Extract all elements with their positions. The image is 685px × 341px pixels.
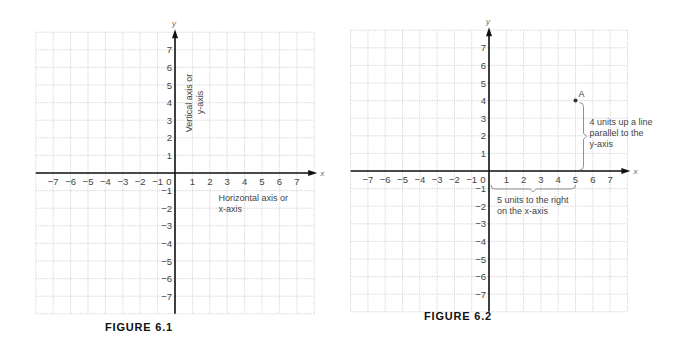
- x-tick-label: 5: [573, 174, 578, 185]
- figure-caption: FIGURE 6.2: [424, 310, 492, 322]
- x-tick-label: 7: [294, 176, 299, 187]
- y-tick-label: 3: [167, 115, 172, 126]
- x-tick-label: 2: [521, 174, 526, 185]
- horizontal-axis-annotation: Horizontal axis or: [219, 193, 289, 203]
- x-axis-arrow-icon: [308, 170, 317, 176]
- y-tick-label: −3: [161, 220, 172, 231]
- x-tick-label: −7: [48, 176, 59, 187]
- y-tick-label: 1: [167, 150, 172, 161]
- y-tick-label: 1: [481, 148, 486, 159]
- x-tick-label: −6: [65, 176, 76, 187]
- x-axis-name: x: [319, 169, 325, 178]
- x-tick-label: 1: [504, 174, 509, 185]
- x-tick-label: 6: [590, 174, 595, 185]
- right-annotation: 5 units to the right: [497, 195, 569, 205]
- y-tick-label: 6: [167, 62, 172, 73]
- x-tick-label: −6: [380, 174, 391, 185]
- y-tick-label: −4: [475, 236, 486, 247]
- up-annotation: 4 units up a line: [590, 117, 653, 127]
- figure-2: xy−7−6−5−4−3−2−1012345677654321−1−2−3−4−…: [351, 17, 653, 322]
- up-annotation: parallel to the: [590, 128, 644, 138]
- x-tick-label: 1: [190, 176, 195, 187]
- x-tick-label: −4: [414, 174, 425, 185]
- y-tick-label: −1: [161, 185, 172, 196]
- figure-caption: FIGURE 6.1: [105, 321, 173, 333]
- y-tick-label: 4: [481, 95, 486, 106]
- x-tick-label: 7: [607, 174, 612, 185]
- y-tick-label: −4: [161, 238, 172, 249]
- x-tick-label: 3: [225, 176, 230, 187]
- x-tick-label: 4: [556, 174, 561, 185]
- point-label: A: [579, 89, 585, 99]
- x-tick-label: −5: [397, 174, 408, 185]
- x-tick-label: −2: [135, 176, 146, 187]
- x-tick-label: −3: [432, 174, 443, 185]
- x-tick-label: −2: [449, 174, 460, 185]
- y-tick-label: −7: [161, 291, 172, 302]
- x-tick-label: 3: [538, 174, 543, 185]
- figures-canvas: xy−7−6−5−4−3−2−1012345677654321−1−2−3−4−…: [0, 0, 685, 341]
- y-axis-name: y: [485, 17, 491, 26]
- point-a: [574, 99, 578, 103]
- y-axis-name: y: [171, 19, 177, 28]
- x-axis-name: x: [632, 167, 638, 176]
- x-tick-label: 2: [207, 176, 212, 187]
- y-tick-label: 2: [167, 132, 172, 143]
- y-tick-label: −5: [161, 256, 172, 267]
- y-tick-label: 6: [481, 60, 486, 71]
- y-tick-label: 5: [167, 80, 172, 91]
- y-axis-arrow-icon: [486, 27, 492, 36]
- y-axis-arrow-icon: [172, 29, 178, 38]
- y-tick-label: −6: [161, 273, 172, 284]
- x-tick-label: 4: [242, 176, 247, 187]
- y-tick-label: −3: [475, 218, 486, 229]
- y-tick-label: −6: [475, 271, 486, 282]
- x-tick-label: 5: [259, 176, 264, 187]
- x-axis-arrow-icon: [621, 168, 630, 174]
- y-tick-label: 2: [481, 130, 486, 141]
- y-tick-label: −1: [475, 183, 486, 194]
- y-tick-label: 3: [481, 113, 486, 124]
- x-tick-label: 6: [277, 176, 282, 187]
- y-tick-label: −7: [475, 289, 486, 300]
- y-tick-label: 4: [167, 97, 172, 108]
- y-tick-label: −2: [475, 201, 486, 212]
- x-tick-label: −3: [117, 176, 128, 187]
- x-tick-label: −4: [100, 176, 111, 187]
- x-tick-label: −5: [83, 176, 94, 187]
- y-tick-label: 7: [481, 42, 486, 53]
- y-tick-label: −2: [161, 203, 172, 214]
- horizontal-axis-annotation: x-axis: [219, 204, 243, 214]
- y-tick-label: 7: [167, 44, 172, 55]
- figure-1: xy−7−6−5−4−3−2−1012345677654321−1−2−3−4−…: [36, 19, 325, 333]
- vertical-axis-annotation: Vertical axis ory-axis: [184, 74, 205, 133]
- x-tick-label: −7: [362, 174, 373, 185]
- right-annotation: on the x-axis: [497, 206, 549, 216]
- y-tick-label: −5: [475, 254, 486, 265]
- y-tick-label: 5: [481, 78, 486, 89]
- up-annotation: y-axis: [590, 139, 614, 149]
